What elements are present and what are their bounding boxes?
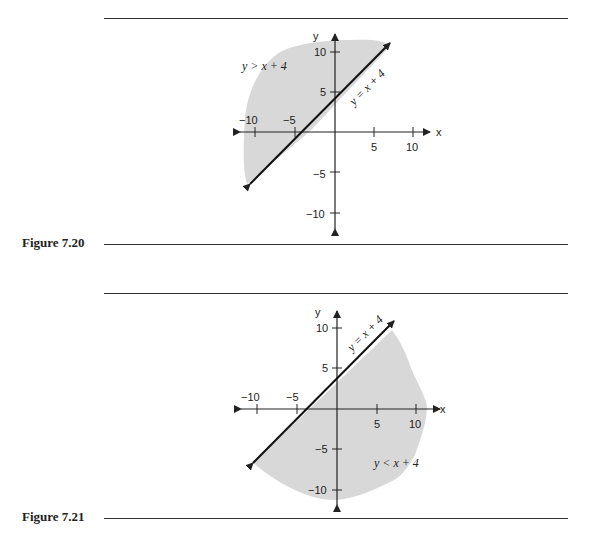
- x-tick-label: −5: [283, 114, 296, 126]
- x-axis-label: x: [436, 126, 442, 138]
- x-tick-label: 5: [374, 418, 380, 430]
- y-axis-label: y: [313, 30, 319, 42]
- region-label: y > x + 4: [241, 59, 287, 73]
- x-tick-label: 10: [406, 141, 418, 153]
- y-tick-label: −5: [313, 168, 326, 180]
- graphs: −10 −5 5 10 10 5 −5 −10 x y y > x + 4 y …: [0, 0, 591, 544]
- x-tick-label: −10: [241, 391, 260, 403]
- x-axis-label: x: [440, 403, 446, 415]
- y-tick-label: 5: [322, 362, 328, 374]
- x-tick-label: 10: [409, 418, 421, 430]
- region-label: y < x + 4: [373, 456, 419, 470]
- y-tick-label: 10: [316, 322, 328, 334]
- y-axis-label: y: [315, 306, 321, 318]
- x-tick-label: 5: [371, 141, 377, 153]
- x-tick-label: −5: [286, 391, 299, 403]
- x-tick-label: −10: [239, 114, 258, 126]
- graph-fig-7-20: −10 −5 5 10 10 5 −5 −10 x y y > x + 4 y …: [239, 30, 442, 229]
- shaded-region: [253, 330, 427, 500]
- y-tick-label: 5: [320, 86, 326, 98]
- y-tick-label: −5: [315, 443, 328, 455]
- y-tick-label: −10: [308, 484, 327, 496]
- graph-fig-7-21: −10 −5 5 10 10 5 −5 −10 x y y < x + 4 y …: [241, 306, 446, 505]
- y-tick-label: 10: [314, 46, 326, 58]
- y-tick-label: −10: [306, 208, 325, 220]
